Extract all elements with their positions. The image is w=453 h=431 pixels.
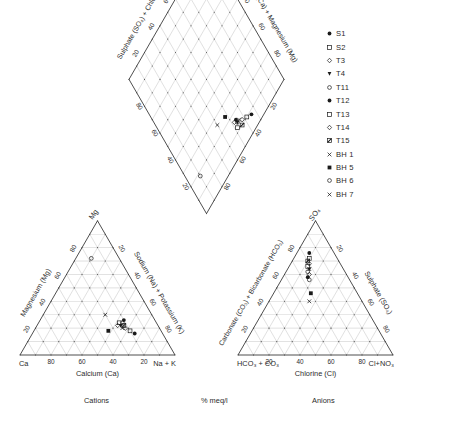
filled-circle-icon bbox=[327, 32, 331, 36]
legend-item-label: T13 bbox=[336, 110, 350, 119]
data-point-cation-bh-5 bbox=[106, 329, 110, 333]
cation-right-axis-label: Sodium (Na) + Potassium (K) bbox=[132, 250, 187, 336]
cross-x-icon bbox=[327, 192, 331, 196]
cation-right-tick-20: 20 bbox=[117, 244, 127, 254]
diamond-lower-left-tick-80: 80 bbox=[135, 101, 145, 111]
diamond-upper-right-tick-60: 60 bbox=[257, 22, 267, 32]
anion-bottom-tick-40: 40 bbox=[296, 358, 304, 365]
filled-down-triangle-icon bbox=[322, 69, 336, 78]
legend-item-label: BH 5 bbox=[336, 163, 354, 172]
legend-item-t11[interactable]: T11 bbox=[322, 81, 412, 94]
cation-right-vertex-label: Na + K bbox=[153, 359, 176, 368]
open-diamond-icon bbox=[327, 58, 331, 63]
legend-item-label: T14 bbox=[336, 123, 350, 132]
data-point-cation-t12 bbox=[122, 318, 126, 322]
piper-diagram: 8060402020406080204060802040608020406080… bbox=[0, 0, 453, 431]
open-square-icon bbox=[322, 110, 336, 119]
cation-left-tick-40: 40 bbox=[37, 297, 47, 307]
diamond-upper-left-tick-40: 40 bbox=[146, 21, 156, 31]
anion-triangle-grid bbox=[237, 220, 393, 355]
filled-square-icon bbox=[327, 166, 331, 170]
open-square-icon bbox=[327, 45, 331, 49]
diamond-upper-left-tick-60: 60 bbox=[162, 0, 172, 4]
anion-right-tick-20: 20 bbox=[335, 244, 345, 254]
filled-circle-icon bbox=[322, 29, 336, 38]
filled-circle-icon bbox=[327, 99, 331, 103]
diamond-lower-left-tick-60: 60 bbox=[150, 128, 160, 138]
legend-item-bh-6[interactable]: BH 6 bbox=[322, 174, 412, 187]
legend: S1S2T3T4T11T12T13T14T15BH 1BH 5BH 6BH 7 bbox=[322, 27, 412, 201]
diamond-upper-right-tick-40: 40 bbox=[242, 0, 252, 5]
anion-left-tick-80: 80 bbox=[286, 243, 296, 253]
cation-left-vertex-label: Ca bbox=[19, 359, 29, 368]
legend-item-s2[interactable]: S2 bbox=[322, 40, 412, 53]
diamond-lower-right-tick-80: 80 bbox=[222, 181, 232, 191]
anion-right-axis-label: Sulphate (SO₄) bbox=[362, 269, 394, 315]
legend-item-s1[interactable]: S1 bbox=[322, 27, 412, 40]
open-circle-icon bbox=[322, 83, 336, 92]
legend-item-t15[interactable]: T15 bbox=[322, 134, 412, 147]
anion-right-vertex-label: Cl+NO₃ bbox=[369, 359, 394, 368]
cross-x-icon bbox=[327, 152, 331, 156]
data-point-diamond-s1 bbox=[250, 112, 254, 116]
data-point-diamond-bh-1 bbox=[215, 123, 219, 127]
filled-square-icon bbox=[322, 163, 336, 172]
legend-item-label: BH 7 bbox=[336, 190, 354, 199]
data-point-anion-bh-5 bbox=[309, 291, 313, 295]
legend-item-label: S1 bbox=[336, 29, 346, 38]
filled-slash-square-icon bbox=[327, 139, 331, 143]
legend-item-t4[interactable]: T4 bbox=[322, 67, 412, 80]
open-diamond-icon bbox=[322, 56, 336, 65]
open-square-icon bbox=[325, 110, 334, 119]
anions-caption: Anions bbox=[312, 396, 335, 405]
legend-item-label: BH 1 bbox=[336, 150, 354, 159]
cross-x-icon bbox=[322, 150, 336, 159]
data-point-diamond-t15 bbox=[240, 123, 244, 127]
anion-bottom-tick-80: 80 bbox=[358, 358, 366, 365]
legend-item-bh-1[interactable]: BH 1 bbox=[322, 148, 412, 161]
anion-bottom-axis-label: Chlorine (Cl) bbox=[295, 369, 336, 378]
diamond-lower-right-tick-40: 40 bbox=[253, 128, 263, 138]
open-diamond-icon bbox=[322, 123, 336, 132]
cation-bottom-tick-80: 80 bbox=[47, 358, 55, 365]
open-circle-icon bbox=[322, 176, 336, 185]
open-square-icon bbox=[325, 43, 334, 52]
anion-right-tick-80: 80 bbox=[382, 324, 392, 334]
cross-x-icon bbox=[325, 150, 334, 159]
legend-item-label: S2 bbox=[336, 43, 346, 52]
anion-bottom-tick-60: 60 bbox=[327, 358, 335, 365]
cation-left-tick-80: 80 bbox=[68, 243, 78, 253]
open-diamond-icon bbox=[325, 123, 334, 132]
diamond-upper-right-tick-80: 80 bbox=[273, 48, 283, 58]
anion-right-tick-60: 60 bbox=[366, 297, 376, 307]
diamond-grid bbox=[128, 0, 284, 214]
legend-item-label: T3 bbox=[336, 56, 345, 65]
cation-left-axis-label: Magnesium (Mg) bbox=[18, 267, 53, 318]
diamond-lower-right-tick-20: 20 bbox=[269, 101, 279, 111]
cation-left-tick-60: 60 bbox=[53, 270, 63, 280]
anion-left-tick-20: 20 bbox=[240, 324, 250, 334]
cation-right-tick-80: 80 bbox=[164, 324, 174, 334]
legend-item-bh-5[interactable]: BH 5 bbox=[322, 161, 412, 174]
legend-item-t13[interactable]: T13 bbox=[322, 107, 412, 120]
data-point-diamond-bh-5 bbox=[223, 115, 227, 119]
legend-item-t14[interactable]: T14 bbox=[322, 121, 412, 134]
legend-item-label: T11 bbox=[336, 83, 349, 92]
open-circle-icon bbox=[327, 85, 331, 89]
legend-item-t3[interactable]: T3 bbox=[322, 54, 412, 67]
cation-right-tick-40: 40 bbox=[133, 270, 143, 280]
filled-slash-square-icon bbox=[325, 136, 334, 145]
open-square-icon bbox=[322, 43, 336, 52]
open-diamond-icon bbox=[327, 125, 331, 130]
cross-x-icon bbox=[322, 190, 336, 199]
open-circle-icon bbox=[327, 179, 331, 183]
legend-item-bh-7[interactable]: BH 7 bbox=[322, 188, 412, 201]
filled-circle-icon bbox=[325, 29, 334, 38]
data-point-diamond-t13 bbox=[236, 126, 240, 130]
data-points-layer bbox=[89, 112, 312, 335]
legend-item-label: T12 bbox=[336, 96, 350, 105]
open-diamond-icon bbox=[325, 56, 334, 65]
diamond-upper-left-tick-20: 20 bbox=[131, 48, 141, 58]
filled-square-icon bbox=[325, 163, 334, 172]
legend-item-t12[interactable]: T12 bbox=[322, 94, 412, 107]
